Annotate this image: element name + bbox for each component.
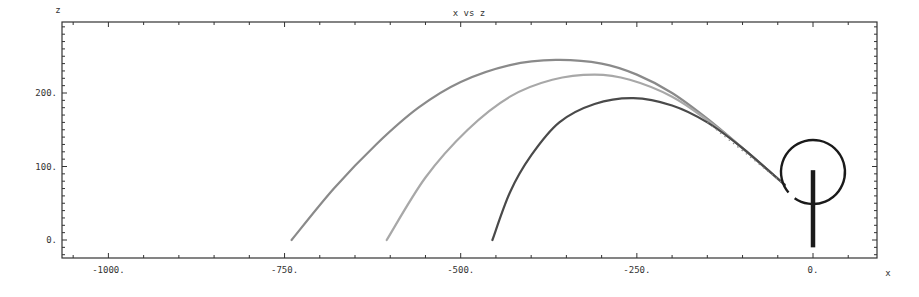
y-tick-label: 200.: [35, 88, 57, 98]
x-vs-z-chart: x vs z z x -1000.-750.-500.-250.0.0.100.…: [0, 0, 919, 297]
plot-frame: [62, 22, 877, 258]
trajectory-3-line: [492, 98, 784, 240]
y-tick-label: 0.: [46, 235, 57, 245]
x-tick-label: -500.: [447, 265, 474, 275]
annotation-layer: [781, 140, 845, 247]
trajectory-1-line: [292, 60, 785, 240]
axis-ticks: [62, 22, 877, 258]
x-tick-label: -1000.: [92, 265, 125, 275]
x-axis-label: x: [885, 268, 891, 278]
chart-title: x vs z: [453, 8, 486, 18]
y-tick-label: 100.: [35, 162, 57, 172]
y-axis-label: z: [55, 5, 60, 15]
x-tick-label: -250.: [623, 265, 650, 275]
x-tick-label: -750.: [271, 265, 298, 275]
trajectory-2-line: [387, 75, 785, 240]
x-tick-label: 0.: [808, 265, 819, 275]
series-layer: [292, 60, 785, 240]
